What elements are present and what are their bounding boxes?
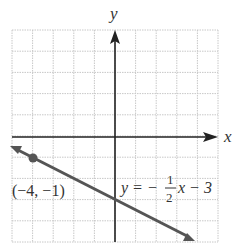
equation-rhs: x − 3 (177, 179, 212, 196)
point-label: (−4, −1) (12, 182, 65, 200)
coordinate-plane: x y (−4, −1) y = − 1 2 x − 3 (0, 0, 243, 247)
equation-lhs: y = − (119, 179, 158, 197)
y-axis-label: y (108, 4, 118, 23)
equation-denominator: 2 (166, 190, 173, 205)
data-point (29, 154, 38, 163)
equation-numerator: 1 (167, 172, 174, 187)
x-axis-label: x (223, 127, 232, 146)
